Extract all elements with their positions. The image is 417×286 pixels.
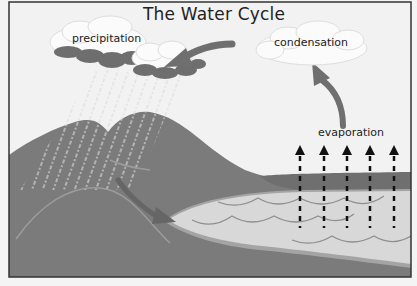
diagram-title: The Water Cycle bbox=[143, 6, 285, 23]
condensation-label: condensation bbox=[274, 37, 348, 48]
evaporation-label: evaporation bbox=[318, 127, 384, 138]
precipitation-label: precipitation bbox=[72, 33, 141, 44]
water-cycle-diagram bbox=[0, 0, 417, 286]
